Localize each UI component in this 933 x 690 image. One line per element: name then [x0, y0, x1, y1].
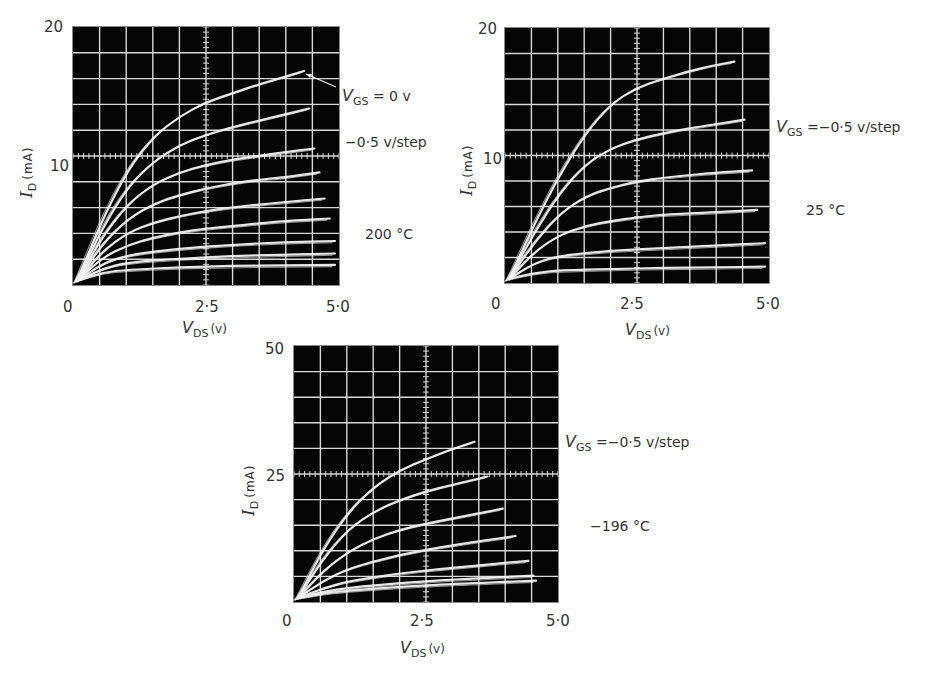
x-tick-mid: 2·5	[620, 295, 644, 313]
trace-plot	[505, 28, 769, 283]
x-tick-mid: 2·5	[410, 612, 434, 630]
y-tick-mid: 10	[483, 150, 502, 168]
x-tick-0: 0	[63, 298, 73, 316]
x-tick-max: 5·0	[546, 612, 570, 630]
y-axis-label: ID(mA)	[456, 145, 479, 196]
temperature-label: −196 °C	[590, 518, 650, 534]
y-tick-top: 20	[478, 20, 497, 38]
step-label: −0·5 v/step	[345, 134, 427, 150]
x-tick-0: 0	[282, 612, 292, 630]
x-tick-0: 0	[491, 295, 501, 313]
y-tick-mid: 10	[50, 157, 69, 175]
y-tick-top: 50	[265, 340, 284, 358]
y-axis-label: ID(mA)	[16, 147, 39, 198]
x-tick-max: 5·0	[326, 298, 350, 316]
trace-plot	[294, 346, 558, 602]
temperature-label: 200 °C	[365, 226, 413, 242]
temperature-label: 25 °C	[806, 202, 845, 218]
trace-curve	[506, 269, 762, 281]
oscilloscope-screen	[72, 26, 340, 286]
y-tick-top: 20	[44, 18, 63, 36]
x-tick-mid: 2·5	[195, 298, 219, 316]
x-axis-label: VDS(v)	[400, 638, 445, 660]
trace-curve	[295, 578, 531, 600]
trace-curve	[74, 243, 332, 283]
vgs-step-label: VGS =−0·5 v/step	[565, 432, 689, 454]
trace-curve	[506, 172, 749, 281]
vgs-step-label: VGS =−0·5 v/step	[776, 117, 900, 139]
x-axis-label: VDS(v)	[625, 320, 670, 342]
oscilloscope-screen	[293, 345, 559, 603]
y-tick-mid: 25	[266, 467, 285, 485]
trace-plot	[73, 27, 339, 285]
vgs-zero-label: VGS = 0 v	[342, 86, 411, 108]
y-axis-label: ID(mA)	[238, 465, 261, 516]
oscilloscope-screen	[504, 27, 770, 284]
x-axis-label: VDS(v)	[182, 318, 227, 340]
x-tick-max: 5·0	[756, 295, 780, 313]
